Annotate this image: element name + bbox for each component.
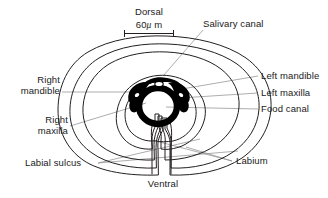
leader-left-mandible xyxy=(176,76,258,90)
labial-sulcus-label: Labial sulcus xyxy=(25,157,81,168)
salivary-canal-lumen xyxy=(155,81,163,86)
right-maxilla-label: Right maxilla xyxy=(16,114,68,136)
ventral-label: Ventral xyxy=(128,178,198,189)
left-mandible-label: Left mandible xyxy=(261,70,319,81)
leader-labium-upper xyxy=(152,140,232,161)
proboscis-cross-section-figure: Dorsal 60μ m Salivary canal Left mandibl… xyxy=(0,0,328,198)
right-mandible-label-line1: Right xyxy=(8,74,60,85)
labium-label: Labium xyxy=(236,155,268,166)
leader-labial-sulcus-upper xyxy=(98,139,200,163)
scale-bar-value: 60 xyxy=(136,19,147,30)
sulcus-wall-left xyxy=(151,122,153,174)
left-maxilla-label: Left maxilla xyxy=(261,87,310,98)
right-maxilla-label-line2: maxilla xyxy=(16,125,68,136)
scale-bar-unit-m: m xyxy=(151,19,162,30)
right-maxilla-label-line1: Right xyxy=(16,114,68,125)
right-mandible-label: Right mandible xyxy=(8,74,60,96)
salivary-canal-label: Salivary canal xyxy=(203,18,264,29)
food-canal-label: Food canal xyxy=(261,103,309,114)
scale-bar-label: 60μ m xyxy=(115,19,183,31)
dorsal-label: Dorsal xyxy=(115,6,183,17)
right-mandible-label-line2: mandible xyxy=(8,85,60,96)
